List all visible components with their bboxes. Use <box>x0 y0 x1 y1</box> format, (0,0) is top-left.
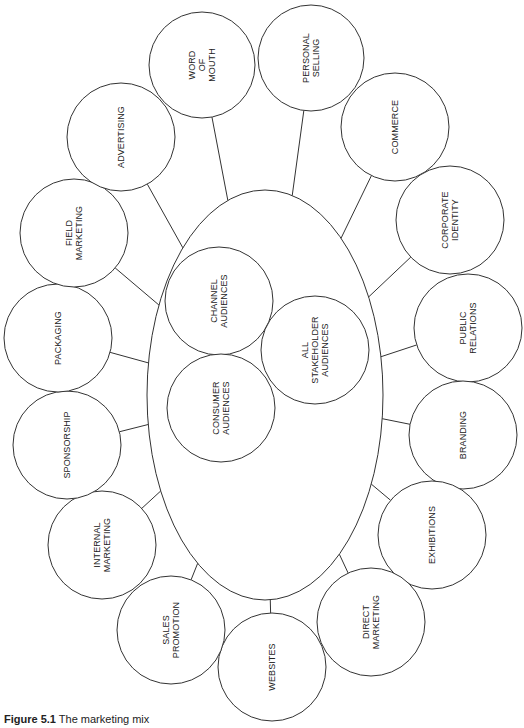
marketing-mix-diagram <box>0 0 524 728</box>
connector-internal-marketing <box>142 491 161 508</box>
tool-label-public-relations: PUBLIC RELATIONS <box>458 302 478 353</box>
connector-packaging <box>110 352 148 363</box>
audience-label-channel: CHANNEL AUDIENCES <box>209 274 229 327</box>
tool-label-commerce: COMMERCE <box>390 100 400 154</box>
tool-label-personal-selling: PERSONAL SELLING <box>301 33 321 83</box>
connector-personal-selling <box>292 111 304 196</box>
tool-label-sponsorship: SPONSORSHIP <box>62 411 72 478</box>
connector-sponsorship <box>119 424 148 431</box>
connector-advertising <box>147 184 183 248</box>
audience-label-consumer: CONSUMER AUDIENCES <box>211 381 231 434</box>
tool-label-corporate-identity: CORPORATE IDENTITY <box>440 191 460 248</box>
tool-label-websites: WEBSITES <box>267 643 277 690</box>
tool-label-word-of-mouth: WORD OF MOUTH <box>187 48 217 82</box>
connector-public-relations <box>381 345 417 357</box>
connector-commerce <box>341 176 371 239</box>
connector-direct-marketing <box>339 554 348 573</box>
tool-label-direct-marketing: DIRECT MARKETING <box>361 595 381 649</box>
tool-label-exhibitions: EXHIBITIONS <box>427 506 437 564</box>
connector-sales-promotion <box>191 563 198 580</box>
tool-label-internal-marketing: INTERNAL MARKETING <box>92 518 112 572</box>
figure-title: The marketing mix <box>59 713 149 725</box>
tool-label-sales-promotion: SALES PROMOTION <box>161 602 181 658</box>
connector-word-of-mouth <box>212 117 228 200</box>
audience-label-stakeholder: ALL STAKEHOLDER AUDIENCES <box>300 316 330 383</box>
tool-label-field-marketing: FIELD MARKETING <box>64 206 84 260</box>
tool-label-advertising: ADVERTISING <box>116 106 126 168</box>
connector-branding <box>382 419 410 425</box>
connector-corporate-identity <box>369 257 411 297</box>
connector-exhibitions <box>371 484 390 500</box>
connector-field-marketing <box>115 268 159 305</box>
figure-number: Figure 5.1 <box>4 713 56 725</box>
figure-caption: Figure 5.1 The marketing mix <box>4 713 149 725</box>
tool-label-packaging: PACKAGING <box>53 311 63 365</box>
tool-label-branding: BRANDING <box>458 411 468 459</box>
